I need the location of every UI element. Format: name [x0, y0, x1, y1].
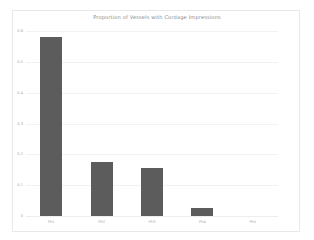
bar-slot: Ph3 [127, 31, 177, 216]
x-axis-tick-label: Ph1 [48, 220, 55, 224]
y-axis-tick-label: 0.2 [17, 152, 23, 156]
y-axis-tick-label: 0.5 [17, 60, 23, 64]
y-axis-tick-label: 0.6 [17, 29, 23, 33]
bar[interactable] [141, 168, 163, 216]
x-axis-tick-label: Ph3 [149, 220, 156, 224]
y-axis-tick-label: 0.4 [17, 91, 23, 95]
y-axis-tick-label: 0 [21, 214, 23, 218]
x-axis-tick-label: Ph5 [249, 220, 256, 224]
chart-title: Proportion of Vessels with Cordage Impre… [0, 14, 314, 21]
gridline [26, 216, 278, 217]
x-axis-tick-label: Ph2 [98, 220, 105, 224]
bar-slot: Ph4 [177, 31, 227, 216]
y-axis-tick-label: 0.3 [17, 122, 23, 126]
bar-slot: Ph1 [26, 31, 76, 216]
bar-slot: Ph2 [76, 31, 126, 216]
y-axis-tick-label: 0.1 [17, 183, 23, 187]
chart-figure: Proportion of Vessels with Cordage Impre… [0, 0, 314, 240]
plot-axes: 00.10.20.30.40.50.6 Ph1Ph2Ph3Ph4Ph5 [26, 31, 278, 216]
bar[interactable] [40, 37, 62, 216]
bar[interactable] [91, 162, 113, 216]
x-axis-tick-label: Ph4 [199, 220, 206, 224]
bar-series: Ph1Ph2Ph3Ph4Ph5 [26, 31, 278, 216]
bar[interactable] [191, 208, 213, 216]
bar-slot: Ph5 [228, 31, 278, 216]
